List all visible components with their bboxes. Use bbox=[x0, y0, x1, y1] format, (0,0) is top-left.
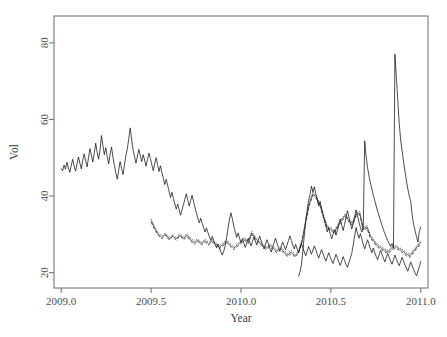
series-line bbox=[151, 192, 421, 254]
x-tick-label: 2010.0 bbox=[226, 295, 257, 307]
series-line bbox=[61, 128, 421, 276]
y-tick-label: 20 bbox=[38, 267, 50, 279]
x-tick-label: 2009.5 bbox=[136, 295, 167, 307]
x-axis: 2009.02009.52010.02010.52011.0 bbox=[46, 288, 436, 307]
y-tick-label: 40 bbox=[38, 190, 50, 202]
series-line bbox=[299, 54, 421, 276]
axis-box bbox=[54, 16, 428, 288]
x-axis-title: Year bbox=[230, 312, 251, 324]
y-axis-title: Vol bbox=[8, 144, 20, 160]
y-tick-label: 80 bbox=[38, 37, 50, 49]
y-axis: 20406080 bbox=[38, 37, 54, 278]
chart-canvas: 20406080 2009.02009.52010.02010.52011.0 … bbox=[0, 0, 447, 337]
plot-frame bbox=[54, 16, 428, 288]
x-tick-label: 2010.5 bbox=[316, 295, 347, 307]
plot-figure: 20406080 2009.02009.52010.02010.52011.0 … bbox=[0, 0, 447, 337]
x-tick-label: 2009.0 bbox=[46, 295, 77, 307]
data-series-group bbox=[61, 54, 421, 276]
series-line bbox=[151, 194, 421, 256]
x-tick-label: 2011.0 bbox=[406, 295, 436, 307]
y-tick-label: 60 bbox=[38, 113, 50, 125]
